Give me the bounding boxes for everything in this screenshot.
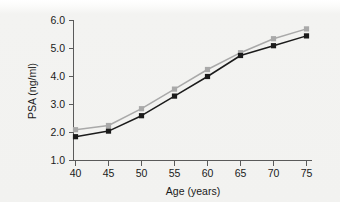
data-point-lower-45 [106,129,111,134]
x-tick-label-45: 45 [103,167,115,179]
y-axis-ticks [69,21,74,161]
y-axis-tick-labels: 6.0 5.0 4.0 3.0 2.0 1.0 [50,14,65,166]
data-point-upper-55 [172,87,177,92]
x-axis-title: Age (years) [166,185,220,197]
data-point-upper-75 [304,26,309,31]
data-point-lower-75 [304,33,309,38]
y-tick-label-6: 6.0 [50,14,65,26]
data-point-upper-60 [205,67,210,72]
data-point-lower-55 [172,94,177,99]
x-tick-label-70: 70 [268,167,280,179]
y-tick-label-4: 4.0 [50,70,65,82]
y-axis-title: PSA (ng/ml) [26,63,38,119]
y-tick-label-1: 1.0 [50,154,65,166]
y-tick-label-5: 5.0 [50,42,65,54]
data-point-lower-70 [271,43,276,48]
data-point-upper-70 [271,36,276,41]
x-tick-label-60: 60 [202,167,214,179]
psa-vs-age-line-chart: 6.0 5.0 4.0 3.0 2.0 1.0 PSA (ng/ml) [0,0,340,202]
y-axis-group: 6.0 5.0 4.0 3.0 2.0 1.0 PSA (ng/ml) [26,14,74,166]
data-point-lower-65 [238,53,243,58]
x-tick-label-65: 65 [235,167,247,179]
x-tick-label-75: 75 [301,167,313,179]
data-point-lower-40 [73,134,78,139]
x-axis-tick-labels: 40 45 50 55 60 65 70 75 [70,167,313,179]
y-tick-label-2: 2.0 [50,126,65,138]
data-point-lower-60 [205,74,210,79]
data-point-upper-40 [73,127,78,132]
y-tick-label-3: 3.0 [50,98,65,110]
data-point-upper-50 [139,106,144,111]
chart-figure: 6.0 5.0 4.0 3.0 2.0 1.0 PSA (ng/ml) [0,0,340,202]
series-lower-line [76,36,307,137]
data-point-upper-45 [106,123,111,128]
data-point-lower-50 [139,113,144,118]
x-tick-label-55: 55 [169,167,181,179]
x-axis-group: 40 45 50 55 60 65 70 75 Age (years) [70,161,313,198]
x-axis-ticks [76,161,307,166]
series-upper [73,26,309,132]
x-tick-label-40: 40 [70,167,82,179]
x-tick-label-50: 50 [136,167,148,179]
